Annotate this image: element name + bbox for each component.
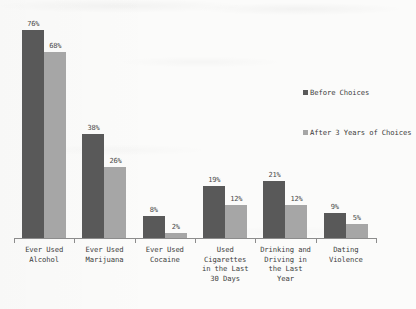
bar-item[interactable]: 12% <box>225 205 247 238</box>
category-label: Dating Violence <box>316 245 376 264</box>
bar-0[interactable] <box>22 30 44 238</box>
bar-value-label: 21% <box>268 171 280 179</box>
legend-entry[interactable]: Before Choices <box>303 88 413 98</box>
bar-0[interactable] <box>263 181 285 238</box>
legend-label: Before Choices <box>310 88 369 98</box>
bar-value-label: 9% <box>331 203 339 211</box>
x-axis-tick <box>316 238 317 243</box>
bar-item[interactable]: 76% <box>22 30 44 238</box>
x-axis-tick <box>255 238 256 243</box>
bar-1[interactable] <box>285 205 307 238</box>
bar-1[interactable] <box>346 224 368 238</box>
bar-1[interactable] <box>165 233 187 238</box>
x-axis-tick <box>376 238 377 243</box>
bar-0[interactable] <box>82 134 104 238</box>
bar-group: 38%26% <box>74 0 134 238</box>
bar-value-label: 38% <box>87 124 99 132</box>
category-label: Drinking and Driving in the Last Year <box>255 245 315 283</box>
x-axis-tick <box>74 238 75 243</box>
bar-item[interactable]: 12% <box>285 205 307 238</box>
x-axis-tick <box>195 238 196 243</box>
bar-item[interactable]: 26% <box>104 167 126 238</box>
bar-group: 8%2% <box>135 0 195 238</box>
legend-swatch-icon <box>303 90 308 95</box>
bar-1[interactable] <box>104 167 126 238</box>
bar-value-label: 19% <box>208 176 220 184</box>
x-axis-tick <box>135 238 136 243</box>
bar-value-label: 12% <box>290 195 302 203</box>
bar-item[interactable]: 68% <box>44 52 66 238</box>
bar-value-label: 2% <box>172 223 180 231</box>
bar-value-label: 5% <box>353 214 361 222</box>
legend-label: After 3 Years of Choices <box>310 128 411 138</box>
bar-item[interactable]: 2% <box>165 233 187 238</box>
bar-value-label: 76% <box>27 20 39 28</box>
bar-0[interactable] <box>143 216 165 238</box>
bar-item[interactable]: 19% <box>203 186 225 238</box>
legend-entry[interactable]: After 3 Years of Choices <box>303 128 413 138</box>
grouped-bar-chart: 76%68%38%26%8%2%19%12%21%12%9%5% Ever Us… <box>0 0 416 309</box>
bar-group: 19%12% <box>195 0 255 238</box>
x-axis-tick <box>14 238 15 243</box>
bar-value-label: 8% <box>150 206 158 214</box>
legend-swatch-icon <box>303 130 308 135</box>
bar-group: 76%68% <box>14 0 74 238</box>
bar-value-label: 12% <box>230 195 242 203</box>
bar-value-label: 68% <box>49 42 61 50</box>
category-label: Ever Used Marijuana <box>74 245 134 264</box>
category-label: Ever Used Alcohol <box>14 245 74 264</box>
chart-legend: Before ChoicesAfter 3 Years of Choices <box>303 88 413 168</box>
bar-1[interactable] <box>44 52 66 238</box>
bar-item[interactable]: 8% <box>143 216 165 238</box>
bar-item[interactable]: 5% <box>346 224 368 238</box>
bar-item[interactable]: 9% <box>324 213 346 238</box>
bar-0[interactable] <box>324 213 346 238</box>
bar-item[interactable]: 21% <box>263 181 285 238</box>
category-label: Ever Used Cocaine <box>135 245 195 264</box>
bar-0[interactable] <box>203 186 225 238</box>
category-label: Used Cigarettes in the Last 30 Days <box>195 245 255 283</box>
bar-item[interactable]: 38% <box>82 134 104 238</box>
bar-value-label: 26% <box>109 157 121 165</box>
bar-1[interactable] <box>225 205 247 238</box>
